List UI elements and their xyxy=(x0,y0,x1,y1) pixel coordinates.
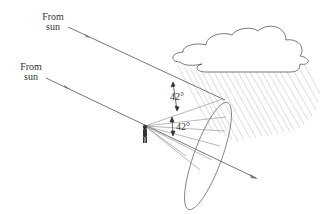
arrow-head-end xyxy=(250,174,258,179)
sun-ray-lower xyxy=(46,78,256,178)
angle-label-upper: 42° xyxy=(170,92,184,102)
angle-label-lower: 42° xyxy=(176,122,190,132)
rain-streaks xyxy=(178,64,320,142)
sun-label-lower: From sun xyxy=(16,62,46,82)
cone-lines xyxy=(145,99,226,170)
cloud xyxy=(173,26,308,72)
sun-label-upper: From sun xyxy=(38,12,68,32)
arrow-head-upper xyxy=(85,34,91,38)
sun-label-upper-line2: sun xyxy=(38,22,68,32)
sun-label-lower-line2: sun xyxy=(16,72,46,82)
rainbow-diagram xyxy=(0,0,329,214)
observer xyxy=(143,125,147,143)
